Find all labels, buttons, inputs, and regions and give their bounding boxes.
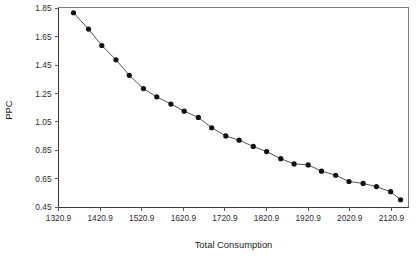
x-tick-label: 2020.9 (337, 213, 363, 223)
data-point (374, 184, 379, 189)
y-tick-label: 0.65 (35, 174, 52, 184)
y-tick-label: 1.45 (35, 60, 52, 70)
x-tick-label: 1320.9 (46, 213, 72, 223)
x-tick-label: 1720.9 (212, 213, 238, 223)
data-point (251, 144, 256, 149)
data-point (113, 57, 118, 62)
ppc-line-chart: 1.851.651.451.251.050.850.650.45 1320.91… (0, 0, 419, 259)
y-tick-label: 0.45 (35, 202, 52, 212)
x-tick-label: 1620.9 (171, 213, 197, 223)
data-point (306, 162, 311, 167)
data-point (278, 156, 283, 161)
x-tick-label: 1820.9 (254, 213, 280, 223)
data-point (141, 86, 146, 91)
data-point (388, 189, 393, 194)
y-tick-label: 1.25 (35, 89, 52, 99)
y-tick-label: 0.85 (35, 145, 52, 155)
data-point (99, 43, 104, 48)
y-axis-title: PPC (3, 100, 14, 120)
data-point (291, 161, 296, 166)
x-tick-label: 1920.9 (295, 213, 321, 223)
data-point (223, 133, 228, 138)
x-tick-label: 1520.9 (129, 213, 155, 223)
data-point (127, 73, 132, 78)
data-point (154, 94, 159, 99)
data-point (196, 115, 201, 120)
data-point (86, 26, 91, 31)
data-point (71, 10, 76, 15)
data-point (209, 125, 214, 130)
data-point (346, 179, 351, 184)
data-point (398, 197, 403, 202)
data-point (182, 109, 187, 114)
x-axis-title: Total Consumption (195, 239, 273, 250)
data-point (264, 149, 269, 154)
data-point (333, 173, 338, 178)
y-tick-label: 1.65 (35, 32, 52, 42)
data-point (237, 138, 242, 143)
x-tick-label: 1420.9 (87, 213, 113, 223)
x-tick-label: 2120.9 (379, 213, 405, 223)
data-point (168, 101, 173, 106)
data-point (361, 181, 366, 186)
chart-figure: 1.851.651.451.251.050.850.650.45 1320.91… (0, 0, 419, 259)
y-tick-label: 1.85 (35, 3, 52, 13)
data-point (319, 169, 324, 174)
y-tick-label: 1.05 (35, 117, 52, 127)
